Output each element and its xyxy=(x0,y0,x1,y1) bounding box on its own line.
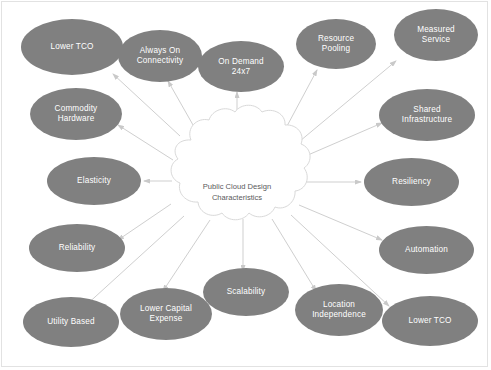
node-label-resiliency: Resiliency xyxy=(392,177,431,187)
node-lower-capital[interactable]: Lower Capital Expense xyxy=(120,288,212,340)
node-location-independence[interactable]: Location Independence xyxy=(295,284,383,336)
node-label-always-on: Always On Connectivity xyxy=(137,46,183,65)
node-label-commodity-hardware: Commodity Hardware xyxy=(55,104,98,123)
connector-to-commodity-hardware xyxy=(118,125,173,160)
node-resiliency[interactable]: Resiliency xyxy=(364,158,459,206)
node-on-demand[interactable]: On Demand 24x7 xyxy=(198,41,284,92)
node-commodity-hardware[interactable]: Commodity Hardware xyxy=(30,88,122,140)
cloud-center-text: Public Cloud Design Characteristics xyxy=(203,182,271,201)
node-label-on-demand: On Demand 24x7 xyxy=(218,57,264,76)
node-label-scalability: Scalability xyxy=(227,287,266,297)
node-label-utility-based: Utility Based xyxy=(47,317,94,327)
node-scalability[interactable]: Scalability xyxy=(203,268,289,316)
node-label-automation: Automation xyxy=(405,245,448,255)
node-always-on[interactable]: Always On Connectivity xyxy=(118,30,202,82)
node-lower-tco-top[interactable]: Lower TCO xyxy=(21,19,123,75)
node-label-elasticity: Elasticity xyxy=(77,176,111,186)
node-label-shared-infrastructure: Shared Infrastructure xyxy=(402,105,452,124)
node-lower-tco-bottom[interactable]: Lower TCO xyxy=(382,296,478,346)
node-label-location-independence: Location Independence xyxy=(312,300,366,319)
cloud-center-label: Public Cloud Design Characteristics xyxy=(177,172,297,203)
connector-to-lower-tco-top xyxy=(113,74,180,136)
node-label-measured-service: Measured Service xyxy=(417,25,455,44)
node-label-reliability: Reliability xyxy=(59,243,96,253)
node-label-lower-tco-top: Lower TCO xyxy=(50,42,93,52)
connector-to-automation xyxy=(299,205,382,240)
node-reliability[interactable]: Reliability xyxy=(29,224,125,272)
connector-to-shared-infrastructure xyxy=(301,123,382,158)
node-label-lower-tco-bottom: Lower TCO xyxy=(408,316,451,326)
node-label-lower-capital: Lower Capital Expense xyxy=(140,304,192,323)
node-label-resource-pooling: Resource Pooling xyxy=(318,34,354,53)
node-resource-pooling[interactable]: Resource Pooling xyxy=(296,19,376,69)
connector-to-measured-service xyxy=(294,61,396,146)
diagram-canvas: Public Cloud Design Characteristics Lowe… xyxy=(0,0,491,370)
node-utility-based[interactable]: Utility Based xyxy=(23,297,119,347)
node-elasticity[interactable]: Elasticity xyxy=(47,157,141,205)
connector-to-lower-capital xyxy=(163,220,210,291)
node-measured-service[interactable]: Measured Service xyxy=(394,9,478,61)
node-shared-infrastructure[interactable]: Shared Infrastructure xyxy=(379,89,475,141)
node-automation[interactable]: Automation xyxy=(379,226,474,274)
